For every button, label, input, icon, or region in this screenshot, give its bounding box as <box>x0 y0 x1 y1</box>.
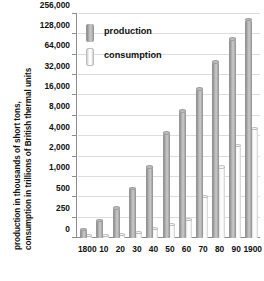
x-axis-label: 1900 <box>243 244 262 254</box>
y-axis-title-line-1: production in thousands of short tons, <box>13 101 24 250</box>
y-axis-label: 1,000 <box>49 162 70 172</box>
y-axis-tick <box>72 217 77 218</box>
bar-production <box>96 220 103 238</box>
bar-body <box>196 89 203 238</box>
bar-group <box>245 14 258 238</box>
y-axis-label: 250 <box>56 203 70 213</box>
legend-swatch-production <box>86 24 94 42</box>
bar-production <box>212 62 219 238</box>
legend-swatch-consumption <box>86 48 94 66</box>
bar-cap <box>80 228 87 231</box>
y-axis-tick <box>72 156 77 157</box>
y-axis-label: 64,000 <box>44 40 70 50</box>
bar-body <box>113 208 120 238</box>
bar-cap <box>212 60 219 63</box>
y-axis-label: 4,000 <box>49 122 70 132</box>
y-axis-tick <box>72 115 77 116</box>
bar-production <box>80 229 87 238</box>
x-axis-label: 30 <box>132 244 141 254</box>
bar-production <box>196 89 203 238</box>
bar-cap <box>196 87 203 90</box>
plot-area: 02505001,0002,0004,0008,00016,00032,0006… <box>78 14 260 238</box>
y-axis-tick <box>72 54 77 55</box>
y-axis-tick <box>72 94 77 95</box>
bar-cap <box>146 165 153 168</box>
y-axis-label: 128,000 <box>40 20 70 30</box>
x-axis-label: 60 <box>182 244 191 254</box>
bar-group <box>163 14 176 238</box>
bar-cap <box>113 206 120 209</box>
bar-group <box>212 14 225 238</box>
bar-body <box>146 167 153 238</box>
x-axis-label: 70 <box>198 244 207 254</box>
y-axis-tick <box>72 176 77 177</box>
bar-group <box>179 14 192 238</box>
bar-body <box>179 111 186 238</box>
bar-production <box>163 133 170 238</box>
bar-cap <box>163 131 170 134</box>
y-axis-label: 500 <box>56 183 70 193</box>
bar-group <box>96 14 109 238</box>
y-axis-label: 16,000 <box>44 81 70 91</box>
y-axis-tick <box>72 135 77 136</box>
x-axis-label: 80 <box>215 244 224 254</box>
bar-group <box>196 14 209 238</box>
x-axis-label: 20 <box>116 244 125 254</box>
x-axis-label: 1800 <box>78 244 97 254</box>
bar-production <box>146 167 153 238</box>
bar-cap <box>229 37 236 40</box>
bar-production <box>245 20 252 238</box>
bar-body <box>129 188 136 238</box>
bar-group <box>113 14 126 238</box>
y-axis-tick <box>72 33 77 34</box>
coal-production-consumption-chart: production in thousands of short tons, c… <box>0 0 264 281</box>
x-axis-label: 50 <box>165 244 174 254</box>
y-axis-title-line-2: consumption in trillions of British ther… <box>24 68 35 250</box>
bar-body <box>229 39 236 238</box>
bar-production <box>179 111 186 238</box>
x-axis-label: 90 <box>232 244 241 254</box>
bar-body <box>163 133 170 238</box>
x-axis-label: 40 <box>149 244 158 254</box>
y-axis-label: 0 <box>65 224 70 234</box>
bar-production <box>129 188 136 238</box>
bar-cap <box>179 109 186 112</box>
legend-label-consumption: consumption <box>104 50 162 60</box>
bar-production <box>229 39 236 238</box>
y-axis-label: 256,000 <box>40 0 70 10</box>
y-axis-label: 2,000 <box>49 142 70 152</box>
y-axis-tick <box>72 13 77 14</box>
bar-body <box>212 62 219 238</box>
bar-group <box>146 14 159 238</box>
y-axis-tick <box>72 74 77 75</box>
bar-group <box>229 14 242 238</box>
legend-label-production: production <box>104 26 152 36</box>
bar-production <box>113 208 120 238</box>
bar-body <box>96 220 103 238</box>
y-axis-title: production in thousands of short tons, c… <box>0 0 40 255</box>
y-axis-tick <box>72 237 77 238</box>
y-axis-label: 32,000 <box>44 61 70 71</box>
bar-group <box>129 14 142 238</box>
y-axis-label: 8,000 <box>49 101 70 111</box>
bar-body <box>245 20 252 238</box>
y-axis-line <box>76 14 77 238</box>
bar-cap <box>96 219 103 222</box>
x-axis-label: 10 <box>99 244 108 254</box>
y-axis-tick <box>72 196 77 197</box>
